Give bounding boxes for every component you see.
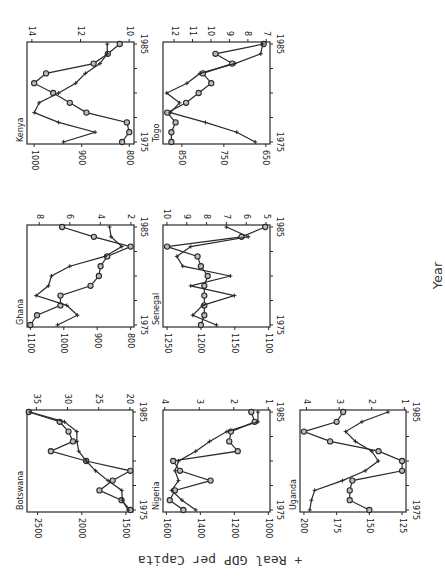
circle-marker [263, 224, 268, 229]
gdp-line [29, 412, 131, 510]
plus-marker [259, 52, 263, 56]
circle-marker [177, 468, 182, 473]
panel-title: Senegal [152, 293, 161, 325]
secondary-tick-label: 25 [94, 394, 103, 404]
circle-marker [327, 439, 332, 444]
year-tick-label: 1985 [275, 402, 284, 422]
gdp-tick-label: 750 [219, 150, 228, 165]
plus-marker [246, 235, 250, 239]
circle-marker [202, 283, 207, 288]
panel-togo: 19751985650750850789101112Togo [152, 26, 284, 165]
secondary-tick-label: 10 [206, 26, 215, 36]
secondary-tick-label: 10 [162, 209, 171, 219]
circle-marker [128, 244, 133, 249]
circle-marker [227, 439, 232, 444]
circle-marker [399, 468, 404, 473]
circle-marker [84, 110, 89, 115]
y-axis-label: + Real GDP per Capita [0, 553, 440, 568]
panel-botswana: 1975198515002000250020253035Botswana [16, 394, 147, 539]
gdp-tick-label: 900 [77, 150, 86, 165]
secondary-tick-label: 2 [367, 399, 376, 404]
secondary-tick-label: 7 [222, 214, 231, 219]
circle-marker [67, 100, 72, 105]
gdp-tick-label: 1000 [264, 518, 273, 538]
panel-senegal: 1975198511001150120012505678910Senegal [152, 209, 284, 354]
panel-uganda: 197519851251501752001234Uganda [289, 399, 420, 533]
circle-marker [127, 130, 132, 135]
gdp-tick-label: 1250 [163, 333, 172, 353]
plus-marker [93, 130, 97, 134]
secondary-tick-label: 6 [65, 214, 74, 219]
circle-marker [171, 458, 176, 463]
panel-title: Togo [152, 124, 161, 144]
circle-marker [43, 71, 48, 76]
secondary-tick-label: 2 [126, 214, 135, 219]
circle-marker [341, 409, 346, 414]
year-tick-label: 1975 [138, 500, 147, 520]
year-tick-label: 1975 [275, 315, 284, 335]
plus-series-line [167, 44, 263, 142]
gdp-tick-label: 1000 [30, 150, 39, 170]
gdp-tick-label: 1400 [196, 518, 205, 538]
secondary-tick-label: 3 [195, 399, 204, 404]
circle-marker [173, 120, 178, 125]
plus-marker [56, 323, 60, 327]
circle-marker [198, 264, 203, 269]
panel-title: Nigeria [152, 481, 161, 510]
circle-marker [347, 488, 352, 493]
secondary-tick-label: 4 [302, 399, 311, 404]
circle-marker [66, 429, 71, 434]
circle-marker [376, 449, 381, 454]
circle-marker [120, 139, 125, 144]
gdp-tick-label: 1500 [121, 518, 130, 538]
secondary-tick-label: 9 [182, 214, 191, 219]
gdp-tick-label: 1150 [230, 333, 239, 353]
secondary-tick-label: 12 [76, 26, 85, 36]
secondary-tick-label: 2 [229, 399, 238, 404]
year-tick-label: 1985 [139, 217, 148, 237]
circle-marker [367, 507, 372, 512]
year-tick-label: 1975 [275, 500, 284, 520]
circle-marker [124, 120, 129, 125]
circle-marker [91, 234, 96, 239]
year-tick-label: 1975 [139, 132, 148, 152]
plus-marker [386, 410, 390, 414]
secondary-tick-label: 9 [225, 31, 234, 36]
circle-marker [334, 419, 339, 424]
year-tick-label: 1975 [411, 500, 420, 520]
secondary-tick-label: 4 [96, 214, 105, 219]
secondary-tick-label: 10 [125, 26, 134, 36]
secondary-tick-label: 12 [170, 26, 179, 36]
circle-marker [198, 322, 203, 327]
year-tick-label: 1985 [138, 402, 147, 422]
gdp-tick-label: 800 [126, 333, 135, 348]
circle-marker [169, 139, 174, 144]
gdp-tick-label: 800 [125, 150, 134, 165]
secondary-tick-label: 1 [400, 399, 409, 404]
circle-marker [195, 254, 200, 259]
panel-title: Kenya [16, 117, 25, 142]
circle-marker [202, 313, 207, 318]
circle-marker [235, 449, 240, 454]
plus-marker [232, 294, 236, 298]
plus-marker [37, 101, 41, 105]
plus-series-line [177, 227, 248, 325]
circle-marker [98, 264, 103, 269]
plus-marker [308, 508, 312, 512]
secondary-tick-label: 20 [125, 394, 134, 404]
secondary-tick-label: 5 [262, 214, 271, 219]
gdp-tick-label: 2000 [77, 518, 86, 538]
panel-nigeria: 1975198510001200140016001234Nigeria [152, 399, 284, 538]
circle-marker [183, 100, 188, 105]
circle-marker [97, 488, 102, 493]
circle-marker [32, 81, 37, 86]
circle-marker [60, 224, 65, 229]
plus-marker [203, 120, 207, 124]
gdp-tick-label: 1100 [264, 333, 273, 353]
secondary-tick-label: 30 [63, 394, 72, 404]
circle-marker [399, 458, 404, 463]
year-tick-label: 1975 [139, 315, 148, 335]
circle-marker [208, 478, 213, 483]
gdp-tick-label: 1600 [162, 518, 171, 538]
